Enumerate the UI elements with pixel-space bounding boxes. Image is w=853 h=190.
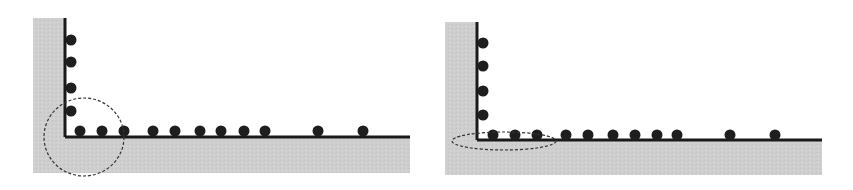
particle-dot bbox=[510, 130, 521, 141]
particle-dot bbox=[672, 130, 683, 141]
particle-dot bbox=[478, 61, 489, 72]
particle-dot bbox=[478, 38, 489, 49]
particle-dot bbox=[148, 126, 159, 137]
particle-dot bbox=[239, 126, 250, 137]
particle-dot bbox=[66, 106, 77, 117]
interface-diagram bbox=[0, 0, 853, 190]
particle-dot bbox=[532, 130, 543, 141]
particle-dot bbox=[583, 130, 594, 141]
panel-left-corner-circle bbox=[33, 18, 410, 176]
particle-dot bbox=[478, 86, 489, 97]
particle-dot bbox=[608, 130, 619, 141]
particle-dot bbox=[66, 35, 77, 46]
particle-dot bbox=[97, 126, 108, 137]
particle-dot bbox=[216, 126, 227, 137]
particle-dot bbox=[358, 126, 369, 137]
particle-dot bbox=[170, 126, 181, 137]
particle-dot bbox=[770, 130, 781, 141]
panel-right-flat-ellipse bbox=[445, 22, 822, 175]
particle-dot bbox=[195, 126, 206, 137]
particle-dot bbox=[313, 126, 324, 137]
particle-dot bbox=[66, 83, 77, 94]
free-space-region bbox=[477, 22, 822, 140]
particle-dot bbox=[260, 126, 271, 137]
free-space-region bbox=[65, 18, 410, 137]
particle-dot bbox=[652, 130, 663, 141]
particle-dot bbox=[630, 130, 641, 141]
particle-dot bbox=[66, 57, 77, 68]
particle-dot bbox=[75, 126, 86, 137]
particle-dot bbox=[478, 110, 489, 121]
particle-dot bbox=[725, 130, 736, 141]
particle-dot bbox=[488, 130, 499, 141]
particle-dot bbox=[561, 130, 572, 141]
